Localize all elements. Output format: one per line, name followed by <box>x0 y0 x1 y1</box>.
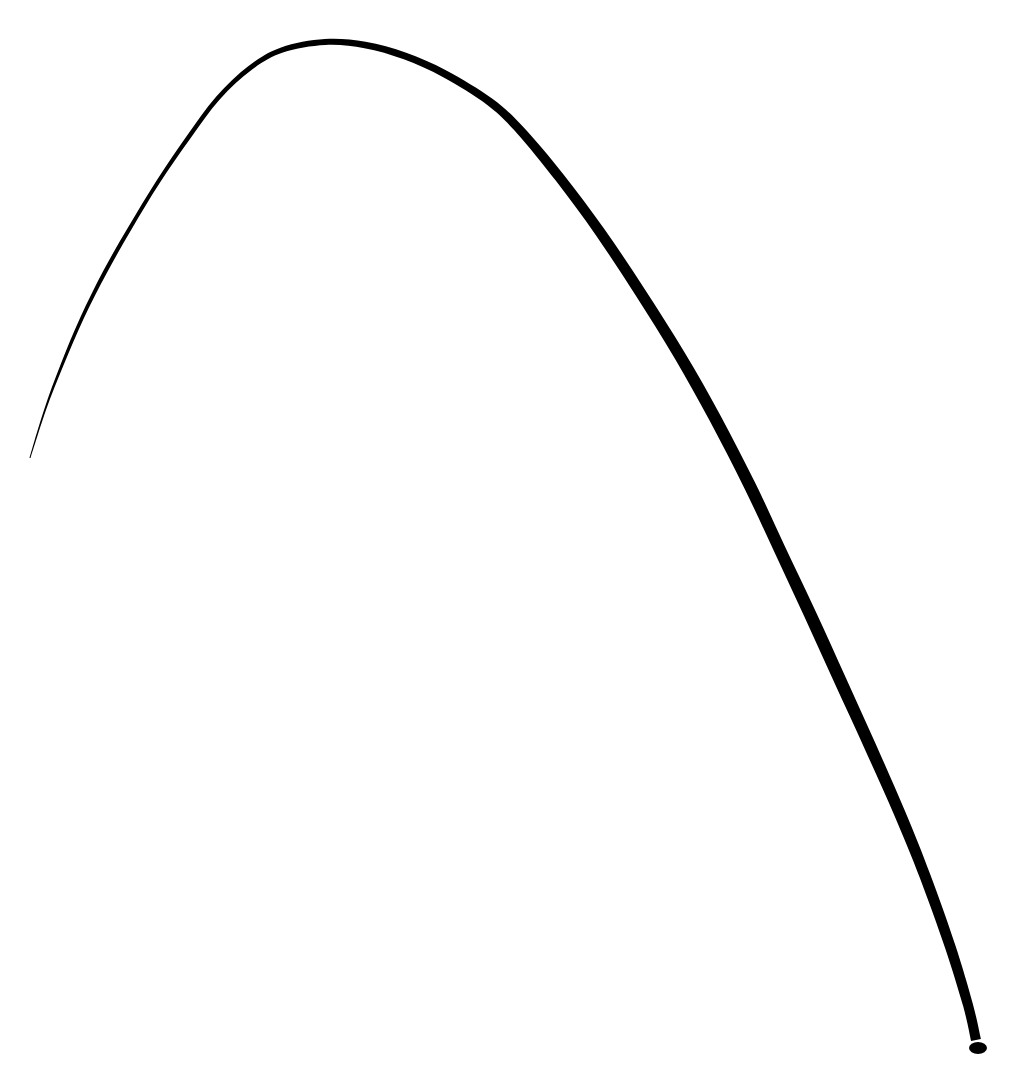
arc-stroke-drawing <box>0 0 1029 1082</box>
drawing-canvas <box>0 0 1029 1082</box>
stroke-end-cap <box>969 1042 987 1054</box>
ink-arc-stroke <box>30 39 981 1041</box>
